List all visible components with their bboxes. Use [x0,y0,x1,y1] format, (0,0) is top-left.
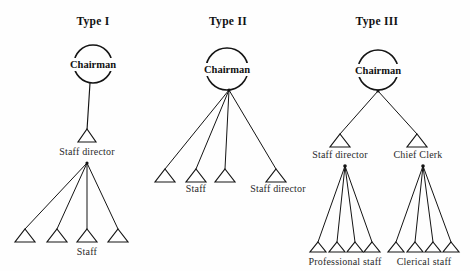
edge-chairman-to-staff-3-type-2 [225,90,229,169]
edge-clerical-staff-3 [423,166,433,242]
staff-director-label-type-3: Staff director [312,149,368,160]
staff-triangle-type-1 [47,229,67,242]
edge-chairman-to-staff-director-type-3 [340,91,378,134]
clerical-staff-triangle [443,242,459,252]
professional-staff-triangle [364,242,380,252]
clerical-staff-label: Clerical staff [397,256,452,267]
edge-chairman-to-staff-2-type-2 [196,90,229,169]
edge-fan-staff-2-type-1 [57,163,87,229]
edge-chairman-to-chief-clerk-type-3 [378,91,417,134]
staff-triangle-type-2 [155,169,175,182]
chairman-label-type-2: Chairman [204,64,250,75]
staff-triangle-type-1 [15,229,35,242]
clerical-staff-triangle [407,242,423,252]
panel-type-2: Type II Chairman Staff Staff director [155,15,306,194]
staff-director-label-type-2: Staff director [250,183,306,194]
staff-director-triangle-type-2 [266,169,286,182]
panel-title-type-2: Type II [209,15,247,28]
professional-staff-triangle [347,242,363,252]
edge-professional-staff-4 [345,166,372,242]
edge-fan-staff-1-type-1 [25,163,87,229]
clerical-staff-triangle [425,242,441,252]
professional-staff-label: Professional staff [308,256,382,267]
organization-types-diagram: Type I Chairman Staff director Staff [0,0,470,271]
panel-title-type-3: Type III [356,15,399,28]
staff-label-type-1: Staff [77,246,98,257]
diagram-page: Type I Chairman Staff director Staff [0,0,470,271]
staff-triangle-type-1 [77,229,97,242]
staff-triangle-type-1 [108,229,128,242]
edge-chairman-to-staff-1-type-2 [165,90,229,169]
clerical-staff-triangle [388,242,404,252]
chairman-label-type-1: Chairman [70,59,116,70]
edge-clerical-staff-4 [423,166,451,242]
edge-fan-staff-4-type-1 [87,163,118,229]
staff-label-type-2: Staff [186,183,207,194]
edge-professional-staff-3 [345,166,355,242]
panel-title-type-1: Type I [76,15,109,28]
panel-type-1: Type I Chairman Staff director Staff [15,15,128,257]
staff-triangle-type-2 [215,169,235,182]
staff-director-triangle-type-3 [330,134,350,147]
edge-chairman-to-staff-director-type-1 [87,83,90,130]
chief-clerk-triangle-type-3 [407,134,427,147]
professional-staff-triangle [310,242,326,252]
edge-chairman-to-staff-director-type-2 [229,90,276,169]
staff-director-label-type-1: Staff director [59,146,115,157]
chief-clerk-label-type-3: Chief Clerk [393,149,442,160]
chairman-label-type-3: Chairman [355,65,401,76]
staff-director-triangle-type-1 [78,129,96,142]
staff-triangle-type-2 [186,169,206,182]
panel-type-3: Type III Chairman Staff director Chief C… [308,15,459,267]
professional-staff-triangle [329,242,345,252]
